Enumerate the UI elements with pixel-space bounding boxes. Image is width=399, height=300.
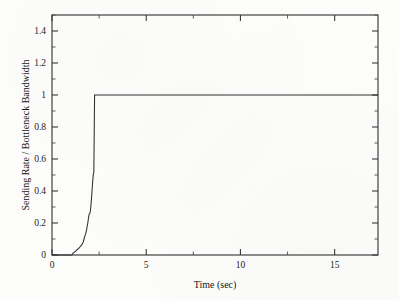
x-tick-label: 0 bbox=[50, 260, 55, 270]
figure-container: 051015 00.20.40.60.811.21.4 Time (sec) S… bbox=[0, 0, 399, 300]
y-axis-major-ticks bbox=[52, 31, 378, 255]
x-axis-minor-ticks bbox=[99, 15, 287, 255]
y-tick-label: 0 bbox=[41, 250, 46, 260]
line-chart: 051015 00.20.40.60.811.21.4 Time (sec) S… bbox=[0, 0, 399, 300]
y-tick-label: 1 bbox=[41, 90, 46, 100]
y-tick-label: 1.2 bbox=[34, 58, 46, 68]
y-tick-label: 1.4 bbox=[34, 26, 46, 36]
y-tick-label: 0.2 bbox=[34, 218, 46, 228]
y-tick-label: 0.6 bbox=[34, 154, 46, 164]
y-axis-tick-labels: 00.20.40.60.811.21.4 bbox=[34, 26, 46, 260]
plot-frame bbox=[52, 15, 378, 255]
x-tick-label: 5 bbox=[144, 260, 149, 270]
y-axis-minor-ticks bbox=[52, 15, 378, 239]
x-tick-label: 10 bbox=[236, 260, 246, 270]
x-axis-title: Time (sec) bbox=[194, 279, 237, 291]
x-axis-tick-labels: 051015 bbox=[50, 260, 340, 270]
y-axis-title: Sending Rate / Bottleneck Bandwidth bbox=[20, 59, 31, 210]
y-tick-label: 0.8 bbox=[34, 122, 46, 132]
data-series-line bbox=[52, 95, 378, 255]
y-tick-label: 0.4 bbox=[34, 186, 46, 196]
x-tick-label: 15 bbox=[330, 260, 340, 270]
